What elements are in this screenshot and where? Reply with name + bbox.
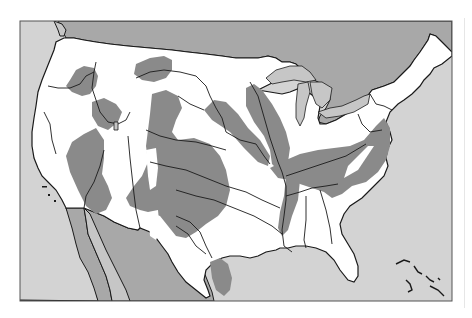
island-ca-2 <box>48 194 50 196</box>
us-map <box>0 0 472 318</box>
island-ca-3 <box>54 200 56 202</box>
page-edge-line <box>464 18 465 308</box>
great-salt-lake <box>114 122 118 130</box>
map-container <box>0 0 472 318</box>
island-ca-1 <box>42 186 47 188</box>
